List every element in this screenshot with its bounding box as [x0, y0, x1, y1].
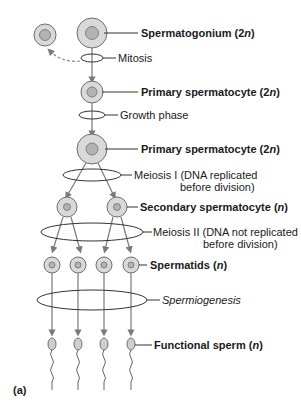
label-functional-sperm: Functional sperm (n)	[154, 339, 263, 351]
meiosis-1-ring	[63, 169, 121, 181]
label-primary-spermatocyte-1: Primary spermatocyte (2n)	[141, 86, 280, 98]
spermatogonium-daughter-cell	[34, 24, 56, 46]
label-primary-spermatocyte-2: Primary spermatocyte (2n)	[141, 143, 280, 155]
primary-spermatocyte-cell-2	[77, 134, 107, 164]
primary-spermatocyte-cell-1	[81, 81, 103, 103]
label-mitosis: Mitosis	[118, 52, 152, 64]
label-meiosis-1: Meiosis I (DNA replicated	[134, 169, 258, 181]
self-renewal-dashed-arrow	[50, 51, 80, 61]
label-meiosis-2: Meiosis II (DNA not replicated	[153, 226, 298, 238]
spermatid-cells	[44, 257, 139, 273]
secondary-spermatocyte-cell-1	[57, 197, 77, 217]
functional-sperm-cells	[48, 338, 135, 390]
secondary-spermatocyte-cell-2	[107, 197, 127, 217]
panel-label: (a)	[13, 384, 26, 396]
label-spermiogenesis: Spermiogenesis	[162, 294, 241, 306]
label-meiosis-2-line2: before division)	[203, 238, 278, 250]
spermatogonium-cell	[77, 18, 107, 48]
meiosis-2-ring	[41, 223, 143, 241]
label-spermatogonium: Spermatogonium (2n)	[141, 27, 255, 39]
label-growth-phase: Growth phase	[120, 109, 188, 121]
label-spermatids: Spermatids (n)	[150, 259, 227, 271]
label-meiosis-1-line2: before division)	[180, 181, 255, 193]
label-secondary-spermatocyte: Secondary spermatocyte (n)	[140, 201, 288, 213]
